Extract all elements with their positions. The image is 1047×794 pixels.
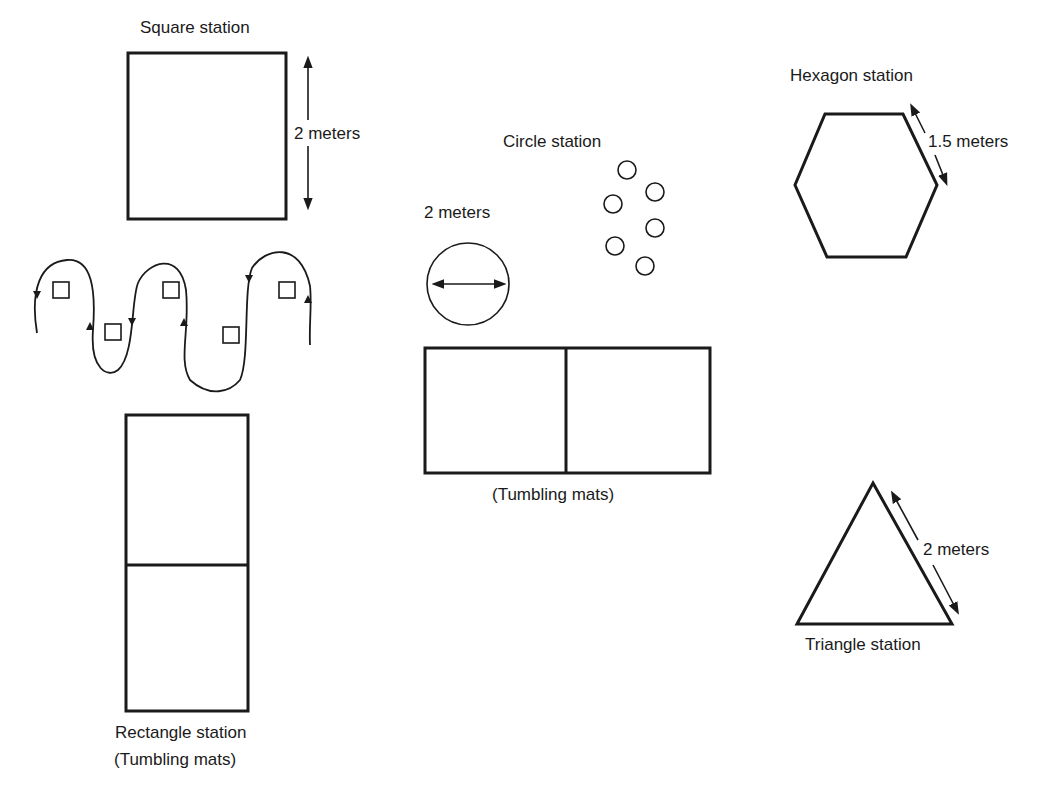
slalom-marker bbox=[163, 282, 179, 298]
slalom-course bbox=[33, 252, 312, 391]
direction-arrow-icon bbox=[245, 275, 253, 283]
triangle-dimension-label: 2 meters bbox=[923, 540, 989, 559]
slalom-marker bbox=[105, 324, 121, 340]
dimension-arrow-down bbox=[933, 565, 956, 609]
direction-arrow-icon bbox=[33, 291, 41, 299]
station-diagram: Square station 2 meters Rectangle statio… bbox=[0, 0, 1047, 794]
circle-dimension-label: 2 meters bbox=[424, 203, 490, 222]
square-station: Square station 2 meters bbox=[128, 18, 360, 219]
dimension-arrow-up bbox=[913, 109, 925, 133]
slalom-marker bbox=[279, 282, 295, 298]
rectangle-station-label: Rectangle station bbox=[115, 723, 246, 742]
direction-arrow-icon bbox=[128, 318, 136, 326]
dimension-arrow-up bbox=[894, 496, 918, 540]
circle-marker bbox=[606, 237, 624, 255]
hexagon-dimension-label: 1.5 meters bbox=[928, 132, 1008, 151]
hexagon-station: Hexagon station 1.5 meters bbox=[790, 66, 1008, 257]
circle-marker bbox=[618, 161, 636, 179]
rectangle-station-sublabel: (Tumbling mats) bbox=[114, 750, 236, 769]
circle-station-label: Circle station bbox=[503, 132, 601, 151]
center-tumbling-mats: (Tumbling mats) bbox=[425, 348, 710, 504]
slalom-marker bbox=[223, 327, 239, 343]
circle-marker bbox=[646, 183, 664, 201]
square-station-label: Square station bbox=[140, 18, 250, 37]
rectangle-station: Rectangle station (Tumbling mats) bbox=[114, 415, 248, 769]
hexagon-shape bbox=[795, 114, 937, 257]
slalom-path bbox=[35, 252, 311, 391]
triangle-station: 2 meters Triangle station bbox=[797, 483, 989, 654]
triangle-station-label: Triangle station bbox=[805, 635, 921, 654]
square-dimension-label: 2 meters bbox=[294, 124, 360, 143]
circle-marker bbox=[636, 257, 654, 275]
dimension-arrow-down bbox=[935, 155, 945, 180]
circle-marker bbox=[604, 195, 622, 213]
circle-station: Circle station 2 meters bbox=[424, 132, 664, 325]
center-mats-label: (Tumbling mats) bbox=[492, 485, 614, 504]
circle-marker bbox=[646, 219, 664, 237]
slalom-marker bbox=[53, 282, 69, 298]
hexagon-station-label: Hexagon station bbox=[790, 66, 913, 85]
square-shape bbox=[128, 53, 286, 219]
rectangle-shape bbox=[126, 415, 248, 711]
